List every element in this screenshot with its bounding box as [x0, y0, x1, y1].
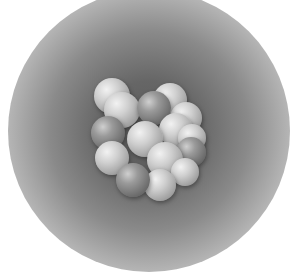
neutron-sphere: [116, 163, 150, 197]
